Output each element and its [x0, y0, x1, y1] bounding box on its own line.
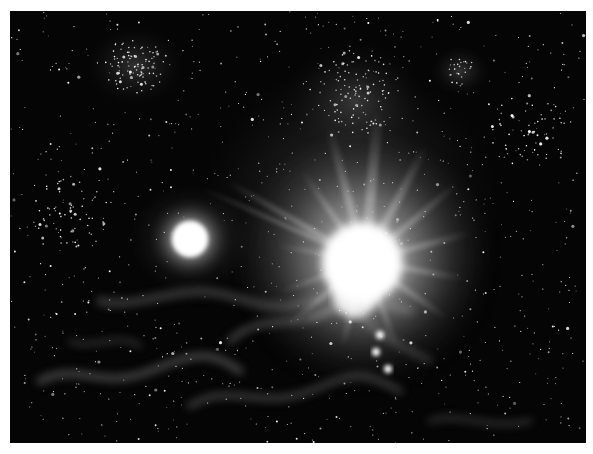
starfield-photo [10, 11, 586, 443]
bright-flare-star [235, 131, 495, 391]
starfield-canvas [10, 11, 586, 443]
small-glowing-star [152, 201, 228, 277]
